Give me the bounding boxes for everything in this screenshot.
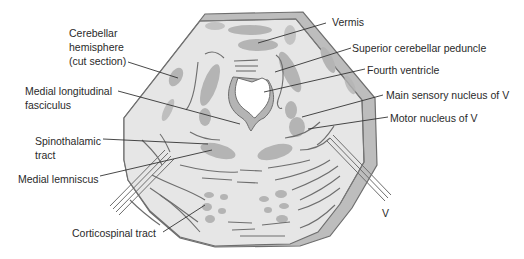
label-vermis: Vermis xyxy=(332,15,364,29)
label-cerebellar-hemisphere: Cerebellar hemisphere (cut section) xyxy=(69,26,126,68)
label-medial-lemniscus: Medial lemniscus xyxy=(18,172,99,186)
label-fourth-ventricle: Fourth ventricle xyxy=(367,63,439,77)
label-trigeminal-nerve: V xyxy=(382,206,389,220)
label-medial-longitudinal-fasciculus: Medial longitudinal fasciculus xyxy=(25,84,112,112)
label-motor-nucleus-v: Motor nucleus of V xyxy=(390,111,478,125)
label-superior-cerebellar-peduncle: Superior cerebellar peduncle xyxy=(352,41,486,55)
label-corticospinal-tract: Corticospinal tract xyxy=(72,226,156,240)
label-spinothalamic-tract: Spinothalamic tract xyxy=(35,134,101,162)
pons-cross-section-diagram: Cerebellar hemisphere (cut section) Medi… xyxy=(0,0,524,259)
label-main-sensory-nucleus-v: Main sensory nucleus of V xyxy=(386,88,509,102)
